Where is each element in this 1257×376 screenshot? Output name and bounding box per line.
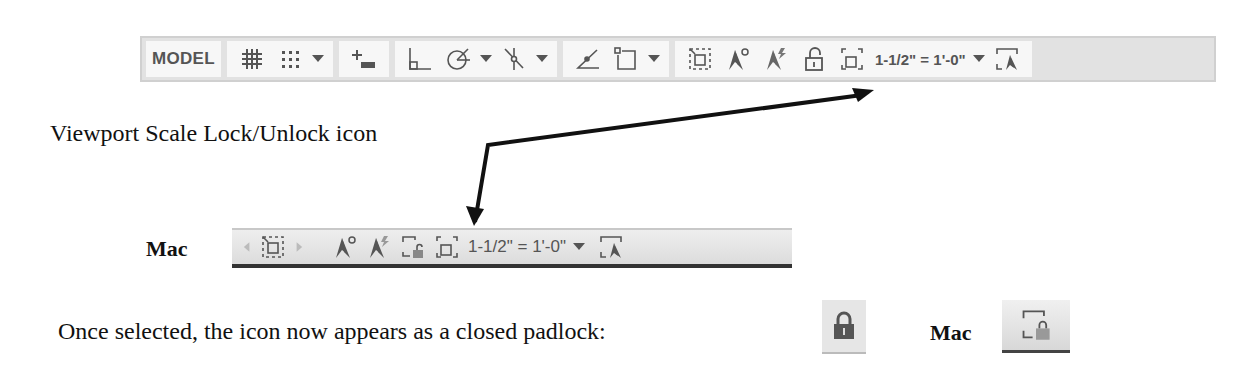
annotation-visibility-icon-mac[interactable] [330, 232, 360, 262]
drafting-group [227, 41, 333, 77]
scale-dropdown-icon-mac[interactable] [570, 232, 588, 262]
model-group: MODEL [146, 41, 221, 77]
grid-icon[interactable] [237, 44, 267, 74]
closed-padlock-icon-mac [1019, 308, 1053, 342]
isometric-drafting-icon[interactable] [573, 44, 603, 74]
dynamic-input-icon[interactable] [349, 44, 379, 74]
tracking-dropdown-icon[interactable] [533, 44, 551, 74]
closed-padlock-caption: Once selected, the icon now appears as a… [58, 318, 606, 345]
snap-dropdown-icon[interactable] [309, 44, 327, 74]
mac-status-bar: 1-1/2" = 1'-0" [232, 228, 792, 268]
viewport-scale-value[interactable]: 1-1/2" = 1'-0" [875, 51, 966, 68]
mac-label: Mac [146, 236, 188, 262]
auto-scale-icon-mac[interactable] [364, 232, 394, 262]
closed-padlock-button-mac[interactable] [1002, 300, 1070, 353]
osnap-dropdown-icon[interactable] [645, 44, 663, 74]
snap-icon[interactable] [275, 44, 305, 74]
polar-tracking-icon[interactable] [443, 44, 473, 74]
osnap-group [563, 41, 669, 77]
viewport-scale-value-mac[interactable]: 1-1/2" = 1'-0" [468, 237, 566, 257]
model-space-button[interactable]: MODEL [152, 49, 215, 69]
input-group [339, 41, 389, 77]
mac-label-2: Mac [930, 320, 972, 346]
scale-dropdown-icon[interactable] [970, 44, 988, 74]
annotation-visibility-icon[interactable] [723, 44, 753, 74]
selection-cycling-icon[interactable] [837, 44, 867, 74]
annotation-scale-icon-mac[interactable] [596, 232, 626, 262]
windows-status-bar: MODEL [140, 36, 1216, 82]
maximize-viewport-icon[interactable] [685, 44, 715, 74]
callout-label: Viewport Scale Lock/Unlock icon [50, 120, 377, 147]
auto-scale-icon[interactable] [761, 44, 791, 74]
viewport-scale-unlock-icon-mac[interactable] [398, 232, 428, 262]
scroll-left-icon[interactable] [240, 232, 254, 262]
scroll-right-icon[interactable] [292, 232, 306, 262]
closed-padlock-icon [831, 311, 857, 341]
object-snap-icon[interactable] [611, 44, 641, 74]
selection-cycling-icon-mac[interactable] [432, 232, 462, 262]
maximize-viewport-icon-mac[interactable] [258, 232, 288, 262]
closed-padlock-button[interactable] [822, 300, 866, 354]
ortho-icon[interactable] [405, 44, 435, 74]
polar-dropdown-icon[interactable] [477, 44, 495, 74]
object-snap-tracking-icon[interactable] [499, 44, 529, 74]
ortho-polar-group [395, 41, 557, 77]
annotation-scale-icon[interactable] [992, 44, 1022, 74]
viewport-scale-unlock-icon[interactable] [799, 44, 829, 74]
viewport-group: 1-1/2" = 1'-0" [675, 41, 1032, 77]
